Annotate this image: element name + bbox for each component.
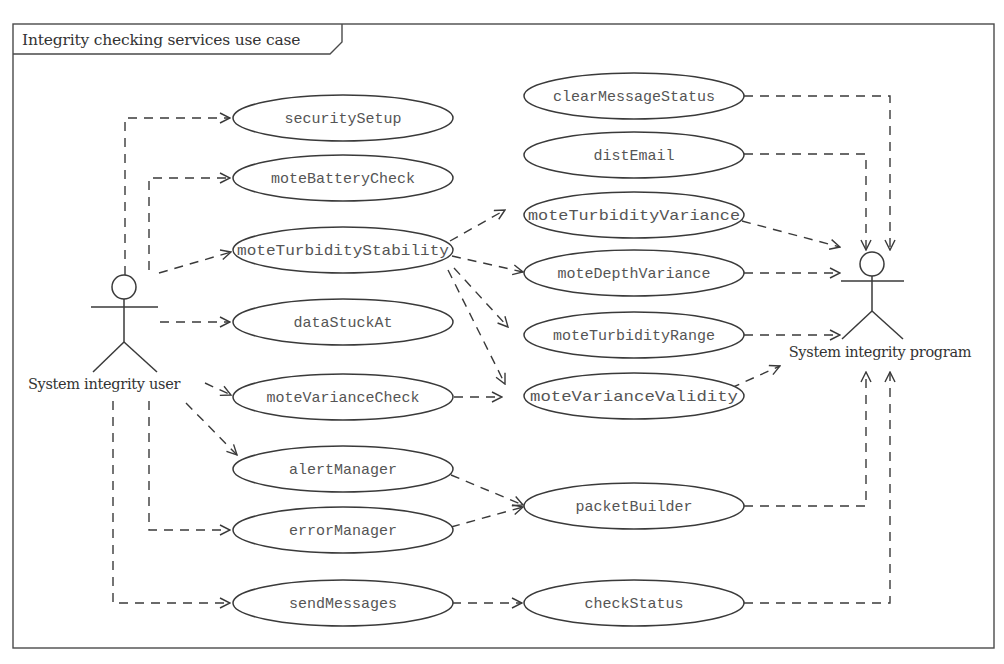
edge-user-moteTurbidityStability <box>159 252 231 273</box>
use-case-label: alertManager <box>289 462 397 479</box>
edge-stability-turbidityRange <box>454 268 508 327</box>
use-case-label: moteVarianceValidity <box>530 389 738 406</box>
edge-user-errorManager <box>149 401 230 530</box>
use-case-label: sendMessages <box>289 596 397 613</box>
edge-turbidityVariance-program <box>742 221 840 247</box>
use-case-dataStuckAt[interactable]: dataStuckAt <box>233 299 453 345</box>
use-case-moteVarianceValidity[interactable]: moteVarianceValidity <box>524 373 744 419</box>
use-case-label: moteVarianceCheck <box>266 390 419 407</box>
use-case-label: moteDepthVariance <box>557 266 710 283</box>
use-case-packetBuilder[interactable]: packetBuilder <box>524 483 744 529</box>
edge-distEmail-program <box>744 154 866 250</box>
use-case-moteTurbidityRange[interactable]: moteTurbidityRange <box>524 312 744 358</box>
edge-user-moteVarianceCheck <box>205 383 231 395</box>
edge-user-alertManager <box>186 403 237 455</box>
actor-system-integrity-user[interactable]: System integrity user <box>28 275 181 392</box>
use-case-label: distEmail <box>593 148 674 165</box>
use-case-clearMessageStatus[interactable]: clearMessageStatus <box>524 73 744 119</box>
use-case-label: checkStatus <box>584 596 683 613</box>
use-case-label: errorManager <box>289 523 397 540</box>
actor-label: System integrity program <box>789 344 972 360</box>
use-case-moteBatteryCheck[interactable]: moteBatteryCheck <box>233 155 453 201</box>
edge-user-securitySetup <box>125 118 230 275</box>
edge-varianceValidity-program <box>731 366 780 388</box>
use-case-label: moteBatteryCheck <box>271 171 415 188</box>
edge-user-moteBatteryCheck <box>149 178 230 270</box>
actor-head-icon <box>860 252 884 276</box>
use-case-moteTurbidityVariance[interactable]: moteTurbidityVariance <box>524 192 744 238</box>
use-case-label: dataStuckAt <box>293 315 392 332</box>
use-case-moteTurbidityStability[interactable]: moteTurbidityStability <box>233 227 453 273</box>
use-case-alertManager[interactable]: alertManager <box>233 446 453 492</box>
usecase-connectors <box>448 210 523 603</box>
edge-stability-depthVariance <box>452 256 523 272</box>
use-case-label: clearMessageStatus <box>553 89 715 106</box>
edge-errorManager-packetBuilder <box>451 507 523 527</box>
edge-packetBuilder-program <box>744 372 866 506</box>
use-case-moteVarianceCheck[interactable]: moteVarianceCheck <box>233 374 453 420</box>
diagram-title: Integrity checking services use case <box>22 31 300 49</box>
use-case-label: packetBuilder <box>575 499 692 516</box>
actor-label: System integrity user <box>28 376 181 392</box>
edge-stability-varianceValidity <box>448 270 505 384</box>
use-case-checkStatus[interactable]: checkStatus <box>524 580 744 626</box>
actor-head-icon <box>112 275 136 299</box>
use-case-label: securitySetup <box>284 111 401 128</box>
use-case-label: moteTurbidityStability <box>237 243 449 260</box>
actor-system-integrity-program[interactable]: System integrity program <box>789 252 972 360</box>
edge-alertManager-packetBuilder <box>451 475 523 505</box>
use-case-distEmail[interactable]: distEmail <box>524 132 744 178</box>
use-case-sendMessages[interactable]: sendMessages <box>233 580 453 626</box>
use-case-label: moteTurbidityRange <box>553 328 715 345</box>
edge-stability-turbidityVariance <box>450 210 505 241</box>
edge-user-sendMessages <box>113 401 230 603</box>
use-cases-right: clearMessageStatus distEmail moteTurbidi… <box>524 73 744 626</box>
use-case-securitySetup[interactable]: securitySetup <box>233 95 453 141</box>
user-connectors <box>113 118 237 603</box>
use-case-moteDepthVariance[interactable]: moteDepthVariance <box>524 250 744 296</box>
use-case-label: moteTurbidityVariance <box>528 208 740 225</box>
use-cases-left: securitySetup moteBatteryCheck moteTurbi… <box>233 95 453 626</box>
edge-checkStatus-program <box>744 372 890 603</box>
use-case-errorManager[interactable]: errorManager <box>233 507 453 553</box>
use-case-diagram: Integrity checking services use case Sys… <box>0 0 1004 664</box>
